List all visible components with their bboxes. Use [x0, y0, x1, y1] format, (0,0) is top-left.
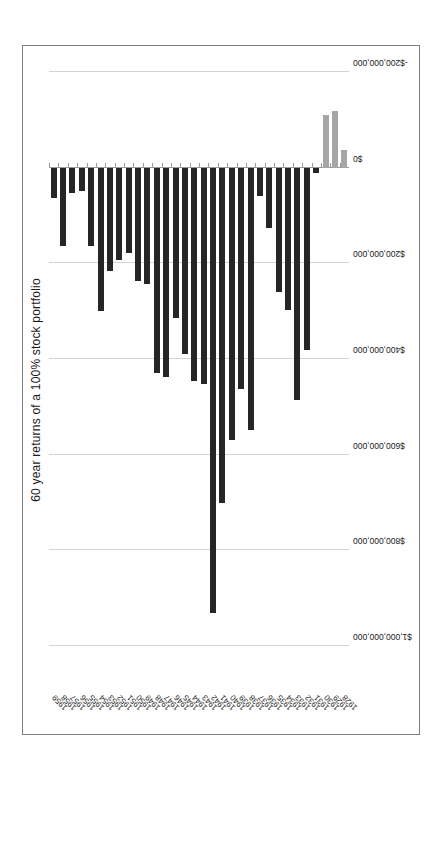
category-tick: [115, 163, 116, 167]
category-tick: [180, 163, 181, 167]
category-tick: [227, 163, 228, 167]
category-tick: [124, 163, 125, 167]
bar: [323, 115, 329, 168]
bar: [173, 168, 179, 319]
bar: [116, 168, 122, 260]
category-tick: [312, 163, 313, 167]
category-tick: [105, 163, 106, 167]
chart-page: 60 year returns of a 100% stock portfoli…: [0, 0, 445, 848]
bar: [257, 168, 263, 196]
category-tick: [274, 163, 275, 167]
category-tick: [58, 163, 59, 167]
bar: [276, 168, 282, 292]
bar: [69, 168, 75, 193]
value-axis-tick-label: $0: [353, 154, 362, 164]
bar: [191, 168, 197, 381]
category-tick: [152, 163, 153, 167]
bar: [210, 168, 216, 613]
plot-area: [49, 72, 349, 694]
bar: [285, 168, 291, 311]
category-tick: [199, 163, 200, 167]
value-axis-tick-label: $800,000,000: [353, 536, 405, 546]
category-tick: [237, 163, 238, 167]
bar: [154, 168, 160, 374]
chart-frame: 60 year returns of a 100% stock portfoli…: [22, 45, 420, 735]
bar: [219, 168, 225, 503]
gridline: [49, 454, 349, 455]
category-tick: [68, 163, 69, 167]
bar: [88, 168, 94, 246]
bar: [332, 111, 338, 167]
gridline: [49, 71, 349, 72]
value-axis-tick-label: $400,000,000: [353, 345, 405, 355]
bar: [51, 168, 57, 198]
value-axis-tick-label: $1,000,000,000: [353, 632, 412, 642]
bar: [341, 150, 347, 168]
category-tick: [340, 163, 341, 167]
category-tick: [87, 163, 88, 167]
bar: [144, 168, 150, 285]
bar: [304, 168, 310, 350]
category-tick: [246, 163, 247, 167]
category-tick: [255, 163, 256, 167]
chart-rotation-wrapper: 60 year returns of a 100% stock portfoli…: [22, 45, 420, 735]
bar: [248, 168, 254, 430]
bar: [294, 168, 300, 400]
category-tick: [133, 163, 134, 167]
value-axis-labels: $1,000,000,000$800,000,000$600,000,000$4…: [353, 72, 417, 694]
category-tick: [302, 163, 303, 167]
gridline: [49, 645, 349, 646]
gridline: [49, 358, 349, 359]
value-axis-tick-label: -$200,000,000: [353, 58, 408, 68]
bar: [266, 168, 272, 228]
category-tick: [190, 163, 191, 167]
bar: [313, 168, 319, 173]
bar: [201, 168, 207, 384]
category-tick: [283, 163, 284, 167]
category-tick: [208, 163, 209, 167]
category-tick: [293, 163, 294, 167]
bar: [135, 168, 141, 281]
category-tick: [265, 163, 266, 167]
value-axis-tick-label: $200,000,000: [353, 249, 405, 259]
category-tick: [49, 163, 50, 167]
bar: [126, 168, 132, 253]
category-tick: [330, 163, 331, 167]
bar: [98, 168, 104, 312]
bar: [107, 168, 113, 271]
bar: [163, 168, 169, 377]
gridline: [49, 549, 349, 550]
category-axis-labels: 1928192919301931193219331934193519361937…: [49, 694, 349, 734]
bar: [182, 168, 188, 354]
category-tick: [96, 163, 97, 167]
value-axis-tick-label: $600,000,000: [353, 441, 405, 451]
category-tick: [162, 163, 163, 167]
category-tick: [77, 163, 78, 167]
category-tick: [171, 163, 172, 167]
bar: [229, 168, 235, 441]
category-tick: [218, 163, 219, 167]
category-tick: [143, 163, 144, 167]
bar: [238, 168, 244, 390]
bar: [60, 168, 66, 246]
chart-title: 60 year returns of a 100% stock portfoli…: [29, 46, 43, 734]
bar: [79, 168, 85, 191]
category-tick: [321, 163, 322, 167]
